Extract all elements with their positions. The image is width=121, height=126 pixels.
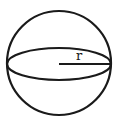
sphere-diagram: r	[0, 0, 121, 126]
radius-label: r	[76, 48, 83, 63]
